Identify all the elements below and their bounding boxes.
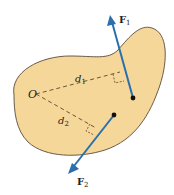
force-f1-arrowhead-icon <box>107 15 116 26</box>
force-f2-application-point <box>112 113 117 118</box>
f1-label: F1 <box>119 14 131 27</box>
point-o-label: O <box>28 88 37 101</box>
f2-label: F2 <box>77 176 89 189</box>
force-f2-arrowhead-icon <box>68 163 79 174</box>
force-f1-application-point <box>131 96 136 101</box>
moment-diagram: O d1 d2 F1 F2 <box>0 0 174 195</box>
